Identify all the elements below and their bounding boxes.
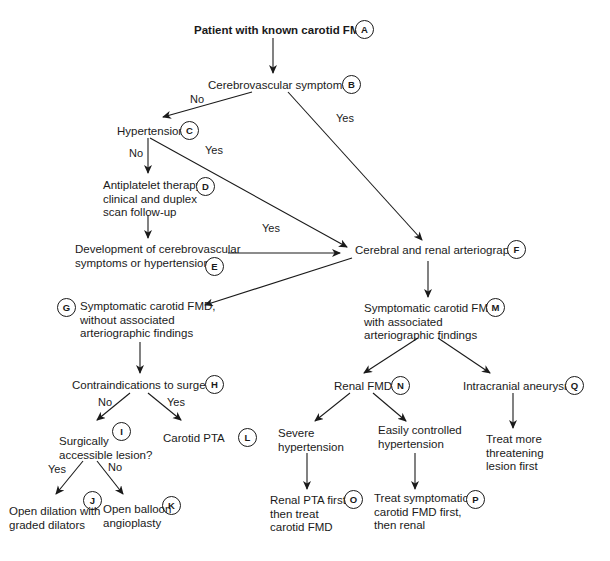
- node-d-line-2: clinical and duplex: [103, 193, 205, 207]
- edge-i-no-label: No: [108, 461, 122, 473]
- node-o-line-2: then treat: [270, 508, 349, 522]
- edge-b-yes-label: Yes: [336, 112, 354, 124]
- node-p-line-1: Treat symptomatic: [374, 492, 468, 506]
- node-d-badge: D: [196, 177, 215, 196]
- node-d-text: Antiplatelet therapy: clinical and duple…: [103, 179, 205, 220]
- node-q-text: Intracranial aneurysm: [463, 380, 574, 394]
- node-l-badge: L: [238, 428, 257, 447]
- edge-c-no-label: No: [129, 147, 143, 159]
- node-o-badge: O: [344, 490, 363, 509]
- node-g-line-2: without associated: [80, 314, 215, 328]
- treat-line-2: threatening: [486, 447, 544, 461]
- node-m-badge: M: [486, 298, 505, 317]
- easily-line-2: hypertension: [378, 438, 462, 452]
- severe-line-2: hypertension: [278, 441, 344, 455]
- node-h-text: Contraindications to surgery?: [72, 379, 222, 393]
- node-p-badge: P: [466, 490, 485, 509]
- severe-line-1: Severe: [278, 427, 344, 441]
- edge-i-yes-label: Yes: [48, 463, 66, 475]
- node-g-text: Symptomatic carotid FMD, without associa…: [80, 300, 215, 341]
- node-h-badge: H: [205, 375, 224, 394]
- node-j-line-1: Open dilation with: [9, 505, 100, 519]
- node-f-badge: F: [507, 240, 526, 259]
- node-d-line-3: scan follow-up: [103, 206, 205, 220]
- node-a-text: Patient with known carotid FMD: [194, 24, 368, 38]
- edge-h-no-label: No: [98, 396, 112, 408]
- node-n-badge: N: [391, 376, 410, 395]
- treat-line-3: lesion first: [486, 460, 544, 474]
- node-p-line-3: then renal: [374, 519, 468, 533]
- flowchart-carotid-fmd: Patient with known carotid FMD A Cerebro…: [0, 0, 610, 561]
- node-e-line-1: Development of cerebrovascular: [75, 243, 241, 257]
- edge-b-no-label: No: [190, 93, 204, 105]
- node-o-line-3: carotid FMD: [270, 521, 349, 535]
- node-k-line-1: Open balloon: [103, 503, 171, 517]
- node-j-line-2: graded dilators: [9, 519, 100, 533]
- node-j-text: Open dilation with graded dilators: [9, 505, 100, 532]
- node-g-line-1: Symptomatic carotid FMD,: [80, 300, 215, 314]
- treat-line-1: Treat more: [486, 433, 544, 447]
- node-l-text: Carotid PTA: [163, 432, 225, 446]
- node-k-text: Open balloon angioplasty: [103, 503, 171, 530]
- node-g-badge: G: [57, 298, 76, 317]
- node-treat-more-threatening: Treat more threatening lesion first: [486, 433, 544, 474]
- node-c-text: Hypertension: [117, 125, 185, 139]
- node-m-line-3: arteriographic findings: [364, 329, 499, 343]
- edge-c-yes-label: Yes: [205, 144, 223, 156]
- node-f-text: Cerebral and renal arteriography: [355, 244, 521, 258]
- node-k-line-2: angioplasty: [103, 517, 171, 531]
- node-m-line-1: Symptomatic carotid FMD,: [364, 302, 499, 316]
- node-o-text: Renal PTA first, then treat carotid FMD: [270, 494, 349, 535]
- node-c-badge: C: [180, 121, 199, 140]
- node-e-badge: E: [205, 257, 224, 276]
- node-m-text: Symptomatic carotid FMD, with associated…: [364, 302, 499, 343]
- node-o-line-1: Renal PTA first,: [270, 494, 349, 508]
- node-i-line-2: accessible lesion?: [59, 449, 152, 463]
- node-q-badge: Q: [565, 376, 584, 395]
- edge-h-yes-label: Yes: [167, 396, 185, 408]
- node-a-badge: A: [355, 20, 374, 39]
- node-m-line-2: with associated: [364, 316, 499, 330]
- node-severe-hypertension: Severe hypertension: [278, 427, 344, 454]
- node-i-text: Surgically accessible lesion?: [59, 435, 152, 462]
- node-p-line-2: carotid FMD first,: [374, 506, 468, 520]
- node-i-line-1: Surgically: [59, 435, 152, 449]
- node-n-text: Renal FMD: [334, 380, 392, 394]
- node-g-line-3: arteriographic findings: [80, 327, 215, 341]
- easily-line-1: Easily controlled: [378, 424, 462, 438]
- node-b-badge: B: [342, 75, 361, 94]
- node-b-text: Cerebrovascular symptoms?: [208, 79, 354, 93]
- edge-e-yes-label: Yes: [262, 222, 280, 234]
- node-d-line-1: Antiplatelet therapy:: [103, 179, 205, 193]
- node-easily-controlled-hypertension: Easily controlled hypertension: [378, 424, 462, 451]
- node-p-text: Treat symptomatic carotid FMD first, the…: [374, 492, 468, 533]
